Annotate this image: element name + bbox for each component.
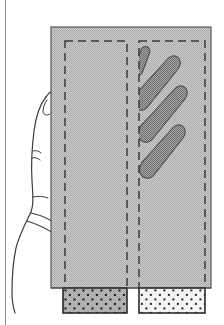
material-samples <box>63 288 205 313</box>
figure-canvas <box>0 0 224 325</box>
sample-right-light <box>139 288 205 313</box>
technical-illustration <box>0 0 224 325</box>
test-chamber-body <box>51 27 211 288</box>
sample-left-dark <box>63 288 127 313</box>
